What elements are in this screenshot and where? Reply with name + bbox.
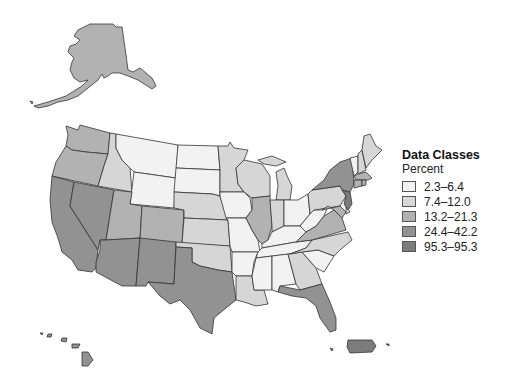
state-nd xyxy=(176,145,220,170)
state-az xyxy=(96,238,140,286)
map-legend: Data Classes Percent 2.3–6.4 7.4–12.0 13… xyxy=(402,148,512,254)
legend-swatch xyxy=(402,181,416,192)
legend-label: 24.4–42.2 xyxy=(424,225,477,239)
legend-swatch xyxy=(402,196,416,207)
state-hi-big xyxy=(82,352,93,366)
state-ak-aleutian xyxy=(30,101,33,104)
state-me xyxy=(362,134,382,168)
state-vi xyxy=(386,344,389,346)
legend-label: 7.4–12.0 xyxy=(424,195,471,209)
legend-swatch xyxy=(402,241,416,252)
legend-item: 2.3–6.4 xyxy=(402,179,512,194)
legend-title: Data Classes xyxy=(402,148,512,162)
legend-item: 24.4–42.2 xyxy=(402,224,512,239)
state-wa xyxy=(66,125,110,154)
state-ia xyxy=(220,192,252,218)
state-ms xyxy=(252,256,272,290)
legend-swatch xyxy=(402,211,416,222)
state-sd xyxy=(174,168,220,196)
state-hi-oahu xyxy=(61,338,67,342)
state-hi-ni xyxy=(40,333,43,335)
legend-item: 7.4–12.0 xyxy=(402,194,512,209)
state-pr xyxy=(347,340,376,353)
state-ny xyxy=(312,158,354,192)
state-hi-maui xyxy=(72,344,80,348)
state-fl xyxy=(278,284,336,332)
state-ri xyxy=(362,180,366,186)
legend-item: 13.2–21.3 xyxy=(402,209,512,224)
legend-label: 2.3–6.4 xyxy=(424,180,464,194)
state-pr-islet xyxy=(330,348,333,351)
legend-label: 13.2–21.3 xyxy=(424,210,477,224)
state-wy xyxy=(130,172,176,208)
state-ct xyxy=(354,180,362,188)
state-co xyxy=(140,206,184,244)
state-hi-kauai xyxy=(47,334,52,337)
legend-subtitle: Percent xyxy=(402,162,512,176)
legend-item: 95.3–95.3 xyxy=(402,239,512,254)
state-ak xyxy=(34,24,156,108)
state-ks xyxy=(182,218,230,246)
legend-swatch xyxy=(402,226,416,237)
state-nm xyxy=(136,238,176,286)
legend-label: 95.3–95.3 xyxy=(424,240,477,254)
